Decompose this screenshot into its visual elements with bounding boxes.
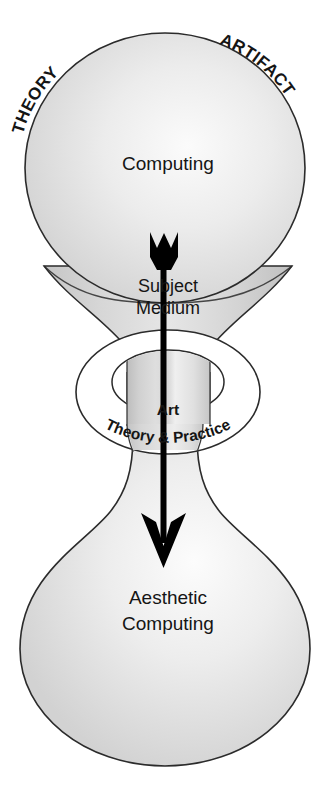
funnel-label-line1: Subject xyxy=(138,276,198,296)
diagram-canvas: THEORY ARTIFACT Computing Subject Medium… xyxy=(0,0,328,791)
top-bulb-label: Computing xyxy=(122,153,214,174)
bottom-bulb-label-line2: Computing xyxy=(122,613,214,634)
funnel-label-line2: Medium xyxy=(136,298,200,318)
ring-label-art: Art xyxy=(157,401,179,418)
aesthetic-computing-diagram: THEORY ARTIFACT Computing Subject Medium… xyxy=(0,0,328,791)
bottom-bulb-label-line1: Aesthetic xyxy=(129,587,207,608)
